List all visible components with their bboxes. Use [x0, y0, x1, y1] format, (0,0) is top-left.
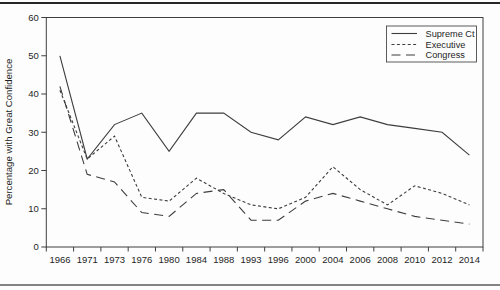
- x-tick-label: 2012: [431, 254, 452, 265]
- x-tick-label: 1984: [186, 254, 207, 265]
- x-tick-label: 2014: [459, 254, 480, 265]
- data-series: [60, 56, 470, 224]
- series-line-executive: [60, 90, 470, 209]
- confidence-line-chart: Percentage with Great Confidence 0102030…: [0, 0, 500, 290]
- legend-label-executive: Executive: [426, 40, 466, 50]
- y-axis-title: Percentage with Great Confidence: [3, 59, 14, 206]
- y-tick-label: 50: [28, 50, 39, 61]
- legend-label-supreme-ct: Supreme Ct: [426, 29, 475, 39]
- legend-label-congress: Congress: [426, 50, 466, 60]
- y-tick-label: 60: [28, 12, 39, 23]
- y-tick-label: 40: [28, 88, 39, 99]
- x-tick-label: 1996: [268, 254, 289, 265]
- x-tick-label: 1971: [77, 254, 98, 265]
- series-line-supreme-ct: [60, 56, 470, 159]
- x-tick-label: 2006: [350, 254, 371, 265]
- x-tick-label: 1966: [49, 254, 70, 265]
- y-tick-label: 10: [28, 203, 39, 214]
- x-tick-label: 1976: [131, 254, 152, 265]
- x-tick-label: 2004: [322, 254, 343, 265]
- y-tick-label: 0: [34, 241, 39, 252]
- x-tick-label: 1980: [159, 254, 180, 265]
- figure-page: Percentage with Great Confidence 0102030…: [0, 0, 500, 290]
- x-tick-label: 2008: [377, 254, 398, 265]
- y-tick-label: 30: [28, 127, 39, 138]
- y-tick-label: 20: [28, 165, 39, 176]
- x-tick-label: 2000: [295, 254, 316, 265]
- y-axis: 0102030405060: [28, 12, 46, 253]
- x-tick-label: 1988: [213, 254, 234, 265]
- x-tick-label: 2010: [404, 254, 425, 265]
- series-line-congress: [60, 86, 470, 224]
- x-tick-label: 1993: [240, 254, 261, 265]
- legend: Supreme Ct Executive Congress: [387, 26, 477, 62]
- x-tick-label: 1973: [104, 254, 125, 265]
- x-axis: 1966197119731976198019841988199319962000…: [46, 247, 483, 265]
